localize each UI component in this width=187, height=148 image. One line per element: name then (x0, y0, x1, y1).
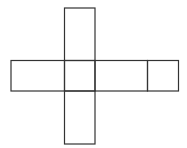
face-right (95, 61, 148, 92)
face-center (65, 61, 96, 92)
face-top (65, 8, 96, 61)
cube-net-diagram (0, 0, 187, 148)
face-left (11, 61, 65, 92)
cube-net-svg (0, 0, 187, 148)
face-far-right (148, 61, 179, 92)
face-bottom (65, 91, 96, 144)
